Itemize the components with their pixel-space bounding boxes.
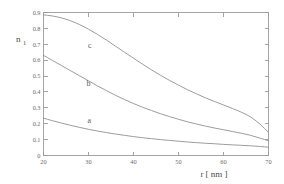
y-tick-label: 0.3 <box>33 104 41 111</box>
y-tick-label: 0.2 <box>33 120 41 127</box>
curve-label-b: b <box>87 79 91 88</box>
y-axis-title: n 1 <box>16 34 26 46</box>
curve-labels: abc <box>87 41 93 125</box>
axis-ticks <box>44 13 269 156</box>
x-tick-label: 50 <box>175 158 181 165</box>
y-tick-label: 0.1 <box>33 136 41 143</box>
y-tick-label: 0.8 <box>33 25 41 32</box>
y-axis-title-text: n <box>16 34 21 44</box>
y-tick-label: 0.5 <box>33 72 41 79</box>
curve-a <box>44 118 269 147</box>
x-tick-label: 70 <box>265 158 271 165</box>
x-axis-title: r [ nm ] <box>200 169 227 179</box>
y-tick-label: 0.7 <box>33 41 41 48</box>
x-tick-label: 40 <box>130 158 136 165</box>
y-tick-label: 0.6 <box>33 56 41 63</box>
curve-c <box>44 15 269 133</box>
plot-frame <box>44 13 269 156</box>
x-tick-label: 30 <box>85 158 91 165</box>
data-curves <box>44 15 269 147</box>
curve-b <box>44 55 269 140</box>
x-tick-label: 60 <box>220 158 226 165</box>
chart-plot-area: 00.10.20.30.40.50.60.70.80.9203040506070… <box>0 0 284 184</box>
axis-tick-labels: 00.10.20.30.40.50.60.70.80.9203040506070 <box>33 9 272 165</box>
curve-label-c: c <box>88 41 92 50</box>
y-tick-label: 0.9 <box>33 9 41 16</box>
x-tick-label: 20 <box>40 158 46 165</box>
figure-chart-n1-vs-r: 00.10.20.30.40.50.60.70.80.9203040506070… <box>0 0 284 184</box>
x-axis-title-text: r [ nm ] <box>200 169 227 179</box>
curve-label-a: a <box>88 116 92 125</box>
y-tick-label: 0.4 <box>33 88 42 95</box>
y-axis-title-subscript: 1 <box>23 40 26 46</box>
